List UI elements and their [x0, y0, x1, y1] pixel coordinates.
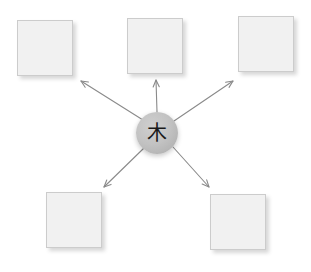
node-box-bottom-left[interactable] — [46, 192, 102, 248]
arrow-to-top-right — [174, 81, 233, 121]
node-box-label — [128, 19, 182, 73]
cjk-character-tree-icon: 木 — [147, 123, 167, 143]
node-box-top-left[interactable] — [17, 20, 73, 76]
node-box-label — [18, 21, 72, 75]
node-box-label — [239, 17, 293, 71]
arrow-to-top-left — [81, 81, 143, 120]
node-box-bottom-right[interactable] — [210, 194, 266, 250]
arrow-to-top-right-head-icon — [226, 81, 233, 87]
node-box-label — [211, 195, 265, 249]
node-box-label — [47, 193, 101, 247]
arrow-to-top-left-head-icon — [81, 81, 88, 87]
arrow-to-bottom-right — [173, 147, 209, 187]
diagram-canvas: 木 — [0, 0, 311, 272]
arrow-to-bottom-left — [104, 148, 144, 187]
arrow-to-top-center — [156, 80, 157, 112]
node-box-top-right[interactable] — [238, 16, 294, 72]
node-box-top-center[interactable] — [127, 18, 183, 74]
hub-circle-node[interactable]: 木 — [136, 112, 178, 154]
